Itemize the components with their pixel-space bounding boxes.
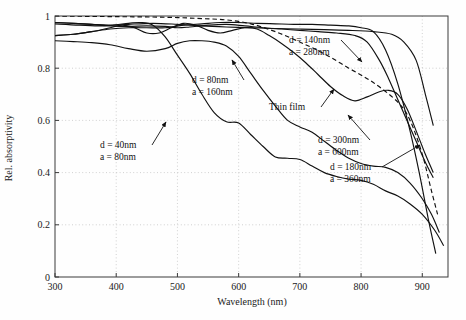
x-axis-label: Wavelength (nm) [217, 296, 286, 308]
annotation-d40-line: a = 80nm [100, 152, 137, 162]
curve-d-300nm-a-600nm [55, 23, 433, 172]
y-tick-label: 0.8 [38, 63, 51, 74]
figure-container: 30040050060070080090000.20.40.60.81 d = … [0, 0, 466, 320]
curve-d-140nm-a-280nm [55, 22, 436, 253]
y-tick-label: 0.6 [38, 115, 51, 126]
curves-layer [55, 16, 444, 254]
y-tick-label: 0.4 [38, 167, 51, 178]
annotation-d140-line: a = 280nm [289, 47, 330, 57]
x-tick-label: 800 [354, 281, 369, 292]
annotation-d180-line: a = 360nm [330, 174, 371, 184]
annotation-thinfilm-arrow [321, 89, 334, 107]
annotation-d300-line: d = 300nm [318, 135, 360, 145]
annotation-d40-line: d = 40nm [100, 140, 137, 150]
annotations-layer: d = 40nma = 80nmd = 80nma = 160nmd = 140… [100, 35, 420, 184]
ticks-layer: 30040050060070080090000.20.40.60.81 [38, 11, 430, 293]
annotation-d300-line: a = 600nm [318, 147, 359, 157]
annotation-d140-line: d = 140nm [289, 35, 331, 45]
curve-upper-plateau-curve [55, 23, 433, 125]
annotation-d80-line: d = 80nm [192, 75, 229, 85]
annotation-d140-arrow [341, 40, 362, 62]
x-tick-label: 500 [170, 281, 185, 292]
annotation-d40-arrow [152, 122, 166, 145]
x-tick-label: 600 [231, 281, 246, 292]
absorptivity-chart: 30040050060070080090000.20.40.60.81 d = … [0, 0, 466, 320]
annotation-thinfilm-line: Thin film [269, 102, 306, 112]
annotation-d80-line: a = 160nm [192, 87, 233, 97]
x-tick-label: 400 [109, 281, 124, 292]
annotation-d180-line: d = 180nm [330, 162, 372, 172]
x-tick-label: 900 [415, 281, 430, 292]
curve-d-80nm-a-160nm [55, 41, 439, 233]
y-axis-label: Rel. absorptivity [3, 115, 14, 182]
x-tick-label: 700 [292, 281, 307, 292]
annotation-d80-arrow [232, 60, 244, 80]
annotation-d180-arrow [382, 145, 420, 167]
y-tick-label: 0.2 [38, 219, 51, 230]
y-tick-label: 1 [45, 11, 50, 22]
x-tick-label: 300 [48, 281, 63, 292]
curve-thin-film [55, 16, 438, 214]
curve-d-40nm-a-80nm [55, 22, 444, 245]
y-tick-label: 0 [45, 272, 50, 283]
